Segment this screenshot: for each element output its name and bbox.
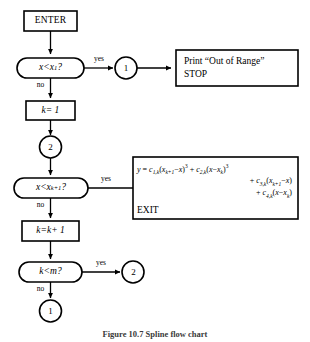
node-decision-k-lt-m bbox=[19, 262, 82, 282]
node-process-k-eq-k-plus-1 bbox=[22, 221, 79, 241]
node-connector-1-top bbox=[115, 57, 137, 79]
node-formula-exit bbox=[133, 157, 298, 219]
node-print-stop bbox=[176, 50, 298, 86]
flowchart-canvas bbox=[0, 0, 310, 342]
flowchart-figure: ENTER x < x1? 1 Print “Out of Range” STO… bbox=[0, 0, 310, 342]
node-connector-2-right bbox=[122, 261, 144, 283]
node-enter bbox=[24, 11, 77, 31]
node-decision-x-lt-x1 bbox=[17, 58, 84, 78]
node-connector-2-mid bbox=[40, 136, 62, 158]
node-process-k-eq-1 bbox=[26, 101, 75, 120]
figure-caption: Figure 10.7 Spline flow chart bbox=[0, 329, 310, 342]
node-connector-1-bottom bbox=[40, 300, 62, 322]
node-decision-x-lt-xk1 bbox=[14, 178, 88, 198]
